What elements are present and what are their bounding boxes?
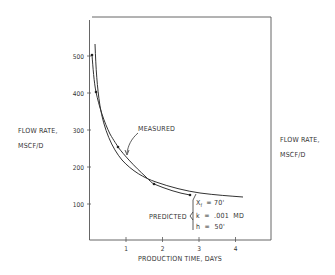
x-tick-2: 2 bbox=[161, 245, 165, 253]
y-tick-400: 400 bbox=[73, 90, 84, 98]
param-h: h = 50' bbox=[196, 223, 225, 231]
x-tick-1: 1 bbox=[124, 245, 128, 253]
param-k: k = .001 MD bbox=[196, 212, 244, 220]
y-axis-label-left-line2: MSCF/D bbox=[18, 142, 44, 150]
x-axis-label: PRODUCTION TIME, DAYS bbox=[138, 255, 222, 263]
predicted-curve bbox=[95, 44, 243, 197]
chart: 500 400 300 200 100 1 2 3 4 MEASURED PRE… bbox=[0, 0, 335, 275]
y-axis-label-left-line1: FLOW RATE, bbox=[18, 127, 58, 135]
x-tick-4: 4 bbox=[234, 245, 238, 253]
y-tick-200: 200 bbox=[73, 164, 84, 172]
predicted-label: PREDICTED bbox=[149, 213, 187, 221]
y-tick-300: 300 bbox=[73, 127, 84, 135]
y-axis-label-right-line2: MSCF/D bbox=[280, 151, 306, 159]
x-ticks bbox=[126, 237, 236, 242]
y-tick-labels: 500 400 300 200 100 bbox=[73, 53, 84, 209]
param-xf: Xf= 70' bbox=[196, 199, 224, 208]
y-axis-label-right-line1: FLOW RATE, bbox=[280, 136, 320, 144]
predicted-brace bbox=[190, 212, 193, 220]
x-tick-labels: 1 2 3 4 bbox=[124, 245, 238, 253]
y-tick-500: 500 bbox=[73, 53, 84, 61]
x-tick-3: 3 bbox=[197, 245, 201, 253]
y-ticks bbox=[87, 56, 91, 204]
measured-label: MEASURED bbox=[138, 125, 175, 133]
y-tick-100: 100 bbox=[73, 201, 84, 209]
